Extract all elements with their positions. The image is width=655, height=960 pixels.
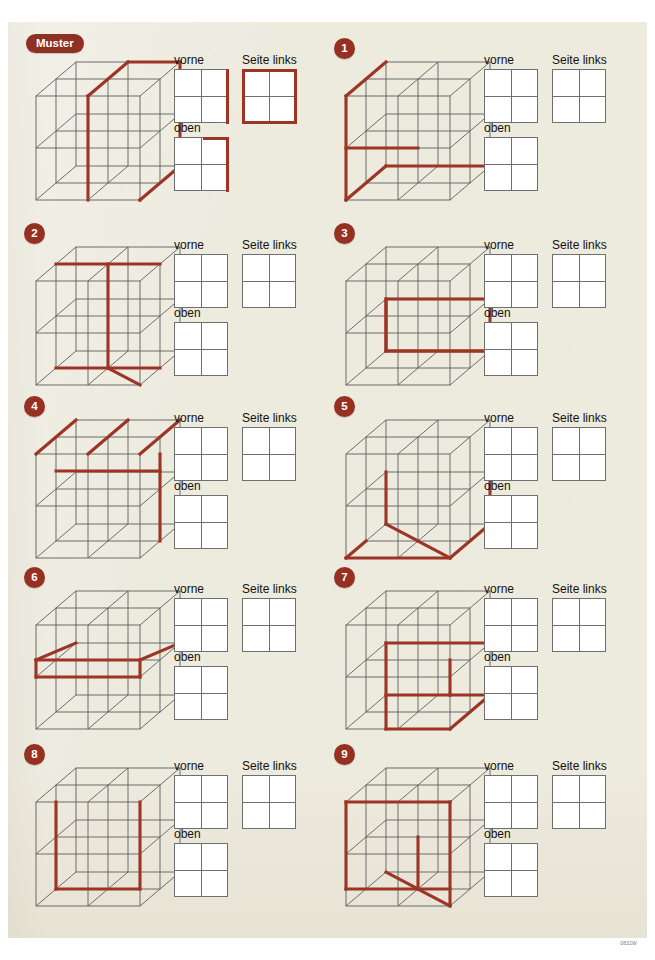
grid-hline xyxy=(175,281,227,282)
panel-label-seite-links: Seite links xyxy=(552,583,607,595)
answer-grid-seite-links[interactable] xyxy=(552,254,606,308)
grid-hline xyxy=(243,96,295,97)
cube-diagram-1 xyxy=(340,56,500,208)
grid-hline xyxy=(485,625,537,626)
panel-label-vorne: vorne xyxy=(174,583,204,595)
grid-hline xyxy=(175,454,227,455)
panel-label-oben: oben xyxy=(174,307,201,319)
answer-grid-seite-links[interactable] xyxy=(552,598,606,652)
answer-grid-vorne[interactable] xyxy=(174,598,228,652)
grid-hline xyxy=(243,281,295,282)
answer-grid-seite-links[interactable] xyxy=(552,427,606,481)
panel-label-oben: oben xyxy=(484,480,511,492)
grid-hline xyxy=(175,96,227,97)
grid-hline xyxy=(243,802,295,803)
panel-label-oben: oben xyxy=(484,828,511,840)
answer-grid-oben[interactable] xyxy=(174,322,228,376)
panel-label-vorne: vorne xyxy=(484,583,514,595)
cube-diagram-muster xyxy=(30,56,190,208)
answer-grid-oben[interactable] xyxy=(484,322,538,376)
answer-grid-oben[interactable] xyxy=(484,666,538,720)
grid-hline xyxy=(485,349,537,350)
answer-grid-vorne[interactable] xyxy=(484,598,538,652)
answer-grid-seite-links[interactable] xyxy=(242,598,296,652)
grid-hline xyxy=(553,96,605,97)
panel-label-vorne: vorne xyxy=(484,239,514,251)
answer-grid-oben[interactable] xyxy=(484,495,538,549)
cube-diagram-8 xyxy=(30,762,190,914)
panel-label-oben: oben xyxy=(174,480,201,492)
answer-grid-vorne[interactable] xyxy=(484,69,538,123)
answer-grid-oben[interactable] xyxy=(174,843,228,897)
panel-label-vorne: vorne xyxy=(484,760,514,772)
answer-grid-seite-links[interactable] xyxy=(242,775,296,829)
cube-diagram-4 xyxy=(30,414,190,566)
grid-hline xyxy=(485,870,537,871)
panel-label-seite-links: Seite links xyxy=(552,239,607,251)
grid-hline xyxy=(175,870,227,871)
panel-label-seite-links: Seite links xyxy=(552,760,607,772)
panel-label-seite-links: Seite links xyxy=(242,583,297,595)
panel-label-vorne: vorne xyxy=(174,54,204,66)
grid-red-edge-right xyxy=(294,69,297,124)
grid-hline xyxy=(485,96,537,97)
worksheet-page: Muster xyxy=(0,0,655,960)
panel-label-vorne: vorne xyxy=(484,54,514,66)
answer-grid-vorne[interactable] xyxy=(174,69,228,123)
grid-hline xyxy=(485,802,537,803)
panel-label-vorne: vorne xyxy=(174,239,204,251)
panel-label-oben: oben xyxy=(174,122,201,134)
answer-grid-seite-links[interactable] xyxy=(552,69,606,123)
grid-red-edge-right xyxy=(226,69,229,124)
answer-grid-seite-links[interactable] xyxy=(552,775,606,829)
grid-hline xyxy=(553,281,605,282)
muster-badge: Muster xyxy=(26,34,84,53)
cube-diagram-3 xyxy=(340,241,500,393)
answer-grid-oben[interactable] xyxy=(484,137,538,191)
panel-label-seite-links: Seite links xyxy=(552,412,607,424)
grid-hline xyxy=(175,693,227,694)
grid-hline xyxy=(485,281,537,282)
grid-hline xyxy=(175,802,227,803)
panel-label-seite-links: Seite links xyxy=(242,54,297,66)
grid-hline xyxy=(485,522,537,523)
grid-hline xyxy=(175,625,227,626)
grid-hline xyxy=(175,522,227,523)
cube-diagram-7 xyxy=(340,585,500,737)
answer-grid-seite-links[interactable] xyxy=(242,427,296,481)
panel-label-oben: oben xyxy=(174,828,201,840)
answer-grid-vorne[interactable] xyxy=(174,427,228,481)
panel-label-seite-links: Seite links xyxy=(242,412,297,424)
grid-red-edge-left xyxy=(242,69,245,124)
answer-grid-oben[interactable] xyxy=(484,843,538,897)
answer-grid-vorne[interactable] xyxy=(174,775,228,829)
grid-hline xyxy=(553,454,605,455)
answer-grid-vorne[interactable] xyxy=(484,254,538,308)
cube-diagram-6 xyxy=(30,585,190,737)
grid-hline xyxy=(485,164,537,165)
footer-code: 0832W xyxy=(620,940,637,946)
grid-hline xyxy=(175,349,227,350)
panel-label-seite-links: Seite links xyxy=(552,54,607,66)
answer-grid-seite-links[interactable] xyxy=(242,254,296,308)
answer-grid-oben[interactable] xyxy=(174,666,228,720)
grid-hline xyxy=(553,625,605,626)
panel-label-seite-links: Seite links xyxy=(242,760,297,772)
grid-hline xyxy=(175,164,227,165)
panel-label-oben: oben xyxy=(484,651,511,663)
panel-label-oben: oben xyxy=(484,122,511,134)
answer-grid-seite-links[interactable] xyxy=(242,69,296,123)
panel-label-vorne: vorne xyxy=(484,412,514,424)
answer-grid-vorne[interactable] xyxy=(484,427,538,481)
answer-grid-vorne[interactable] xyxy=(484,775,538,829)
answer-grid-vorne[interactable] xyxy=(174,254,228,308)
grid-hline xyxy=(485,693,537,694)
grid-hline xyxy=(553,802,605,803)
grid-red-edge-right xyxy=(226,137,229,192)
answer-grid-oben[interactable] xyxy=(174,137,228,191)
panel-label-vorne: vorne xyxy=(174,760,204,772)
answer-grid-oben[interactable] xyxy=(174,495,228,549)
panel-label-oben: oben xyxy=(174,651,201,663)
panel-label-seite-links: Seite links xyxy=(242,239,297,251)
grid-hline xyxy=(243,625,295,626)
